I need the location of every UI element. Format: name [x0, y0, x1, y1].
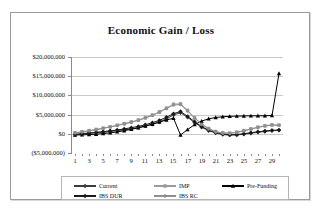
x-axis-tick — [188, 154, 189, 156]
x-axis-tick — [202, 154, 203, 156]
legend-marker — [222, 182, 244, 190]
legend-label: IMP — [179, 183, 190, 189]
data-point-marker — [249, 127, 252, 130]
data-point-marker — [221, 132, 224, 135]
legend-label: Current — [99, 183, 117, 189]
legend-item-imp[interactable]: IMP — [154, 181, 190, 191]
y-axis-label: $15,000,000 — [11, 72, 65, 79]
x-axis-tick — [181, 154, 182, 156]
data-point-marker — [163, 184, 166, 187]
x-axis-label: 7 — [111, 157, 123, 164]
data-point-marker — [256, 126, 259, 129]
x-axis-tick — [272, 154, 273, 156]
x-axis-tick — [195, 154, 196, 156]
data-point-marker — [73, 131, 76, 134]
chart-frame: Economic Gain / Loss $20,000,000$15,000,… — [10, 12, 310, 200]
x-axis-tick — [258, 154, 259, 156]
x-axis-label: 15 — [167, 157, 179, 164]
x-axis-labels: 1357911131517192123252729 — [71, 154, 283, 166]
data-point-marker — [116, 124, 119, 127]
data-point-marker — [256, 130, 260, 134]
legend-swatch — [154, 185, 176, 186]
data-point-marker — [186, 109, 189, 112]
data-point-marker — [200, 123, 203, 126]
data-point-marker — [249, 131, 253, 135]
data-point-marker — [101, 127, 104, 130]
x-axis-label: 21 — [210, 157, 222, 164]
legend-swatch — [222, 185, 244, 186]
legend-marker — [154, 182, 176, 190]
x-axis-label: 13 — [153, 157, 165, 164]
x-axis-tick — [209, 154, 210, 156]
x-axis-label: 3 — [83, 157, 95, 164]
data-point-marker — [83, 184, 87, 188]
x-axis-tick — [138, 154, 139, 156]
x-axis-tick — [110, 154, 111, 156]
x-axis-tick — [279, 154, 280, 156]
legend-item-current[interactable]: Current — [74, 181, 117, 191]
x-axis-tick — [82, 154, 83, 156]
series-ibs-rc — [73, 103, 280, 135]
x-axis-tick — [75, 154, 76, 156]
plot-area-wrapper: $20,000,000$15,000,000$10,000,000$5,000,… — [11, 13, 311, 201]
legend-item-ibs-dur[interactable]: IBS DUR — [74, 191, 123, 201]
series-line — [75, 112, 279, 135]
plot-area — [71, 57, 283, 153]
legend-item-ibs-rc[interactable]: IBS RC — [154, 191, 198, 201]
legend-marker — [154, 192, 176, 200]
x-axis-tick — [117, 154, 118, 156]
x-axis-tick — [166, 154, 167, 156]
x-axis-tick — [223, 154, 224, 156]
x-axis-label: 25 — [238, 157, 250, 164]
data-point-marker — [277, 71, 281, 75]
legend-swatch — [74, 195, 96, 196]
data-point-marker — [242, 129, 245, 132]
x-axis-tick — [265, 154, 266, 156]
x-axis-label: 27 — [252, 157, 264, 164]
data-point-marker — [151, 114, 154, 117]
data-point-marker — [231, 184, 235, 188]
x-axis-label: 17 — [182, 157, 194, 164]
x-axis-tick — [152, 154, 153, 156]
data-point-marker — [277, 128, 281, 132]
data-point-marker — [171, 116, 175, 120]
x-axis-tick — [131, 154, 132, 156]
data-point-marker — [263, 124, 266, 127]
data-point-marker — [80, 130, 83, 133]
y-axis-label: $10,000,000 — [11, 91, 65, 98]
x-axis-tick — [237, 154, 238, 156]
legend-marker — [74, 192, 96, 200]
data-point-marker — [137, 119, 140, 122]
data-point-marker — [228, 132, 231, 135]
y-axis-label: $20,000,000 — [11, 53, 65, 60]
data-point-marker — [87, 129, 90, 132]
data-point-marker — [108, 125, 111, 128]
x-axis-tick — [145, 154, 146, 156]
legend-swatch — [74, 185, 96, 186]
x-axis-tick — [251, 154, 252, 156]
data-point-marker — [83, 194, 87, 198]
data-point-marker — [235, 131, 238, 134]
data-point-marker — [172, 103, 175, 106]
data-point-marker — [277, 124, 280, 127]
y-axis-label: $5,000,000 — [11, 111, 65, 118]
legend-item-pre-funding[interactable]: Pre-Funding — [222, 181, 277, 191]
data-point-marker — [130, 121, 133, 124]
data-point-marker — [207, 127, 210, 130]
legend-swatch — [154, 195, 176, 196]
x-axis-tick — [216, 154, 217, 156]
chart-legend: CurrentIMPPre-FundingIBS DURIBS RC — [61, 176, 289, 200]
x-axis-tick — [103, 154, 104, 156]
legend-label: IBS RC — [179, 193, 198, 199]
x-axis-tick — [159, 154, 160, 156]
data-point-marker — [163, 194, 166, 197]
data-point-marker — [94, 128, 97, 131]
data-point-marker — [165, 107, 168, 110]
series-svg — [71, 57, 283, 153]
data-point-marker — [193, 117, 196, 120]
data-point-marker — [179, 103, 182, 106]
data-point-marker — [270, 128, 274, 132]
x-axis-label: 19 — [196, 157, 208, 164]
y-axis-label: $0 — [11, 130, 65, 137]
y-axis-label: ($5,000,000) — [11, 149, 65, 156]
